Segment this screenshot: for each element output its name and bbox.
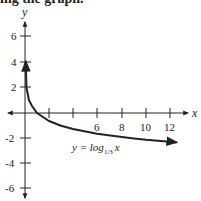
y-tick-label-4: 4 bbox=[11, 56, 17, 68]
x-axis-label: x bbox=[191, 106, 198, 120]
x-tick-label-10: 10 bbox=[140, 121, 152, 133]
y-tick-label-6: 6 bbox=[11, 30, 17, 42]
function-label-var: x bbox=[114, 141, 120, 153]
y-tick-label-neg6: -6 bbox=[5, 182, 15, 194]
y-tick-label-neg4: -4 bbox=[5, 157, 15, 169]
function-label-prefix: y = log bbox=[71, 141, 104, 153]
y-tick-label-neg2: -2 bbox=[5, 132, 14, 144]
x-axis: 6 8 10 12 x bbox=[8, 106, 198, 133]
x-tick-label-6: 6 bbox=[94, 121, 100, 133]
y-axis: 6 4 2 -2 -4 -6 y bbox=[5, 5, 31, 198]
x-tick-label-12: 12 bbox=[164, 121, 175, 133]
x-tick-label-8: 8 bbox=[119, 121, 125, 133]
y-axis-label: y bbox=[21, 5, 28, 19]
function-label: y = log1/3x bbox=[71, 141, 120, 156]
y-tick-label-2: 2 bbox=[11, 81, 17, 93]
log-graph: 6 8 10 12 x 6 4 2 -2 -4 -6 y y = log1/3x bbox=[0, 0, 201, 201]
function-label-base: 1/3 bbox=[104, 148, 113, 156]
log-curve bbox=[26, 62, 176, 142]
